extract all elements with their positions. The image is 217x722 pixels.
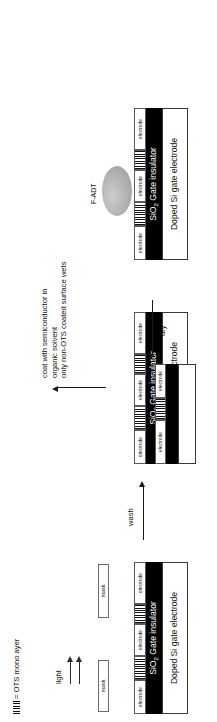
substrate-label: Doped Si gate electrode xyxy=(162,108,187,260)
step-dry-label: dry xyxy=(158,325,168,336)
device-stack: electrode electrode electrode SiO2 Gate … xyxy=(116,108,188,260)
top-feature-row: electrode electrode xyxy=(155,364,166,464)
device-stack: electrode electrode xyxy=(150,364,196,464)
panel-masked-exposure: light mask mask electrode electrode elec… xyxy=(98,562,188,714)
gate-insulator-label: SiO2 Gate insulator xyxy=(145,562,162,714)
substrate-label: Doped Si gate electrode xyxy=(162,562,187,714)
fadt-label: F-ADT xyxy=(90,183,97,204)
gate-insulator-layer xyxy=(166,364,178,464)
substrate-layer xyxy=(178,364,196,464)
step-light-label: light xyxy=(54,670,64,684)
panel-semiconductor-coated: F-ADT electrode electrode electrode SiO2… xyxy=(116,108,188,260)
gate-insulator-label: SiO2 Gate insulator xyxy=(145,108,162,260)
legend-equals: = xyxy=(12,694,21,698)
legend: = OTS mono ayer xyxy=(12,639,21,714)
mask-bar-left: mask xyxy=(98,660,109,712)
panel-dried-device: electrode electrode xyxy=(150,364,196,464)
device-stack: electrode electrode electrode SiO2 Gate … xyxy=(116,562,188,714)
ots-hatch-symbol-icon xyxy=(13,701,20,714)
electrode-segment: electrode xyxy=(155,420,166,464)
rotated-artboard: = OTS mono ayer light mask mask electrod… xyxy=(0,0,217,722)
step-coat-label: coat with semiconductor in organic solve… xyxy=(40,168,69,378)
figure-canvas: = OTS mono ayer light mask mask electrod… xyxy=(0,0,217,722)
mask-bar-right: mask xyxy=(98,564,109,618)
legend-text: OTS mono ayer xyxy=(12,639,21,693)
electrode-segment: electrode xyxy=(155,364,166,398)
ots-segment xyxy=(155,398,166,420)
step-wash-label: wash xyxy=(126,508,136,526)
